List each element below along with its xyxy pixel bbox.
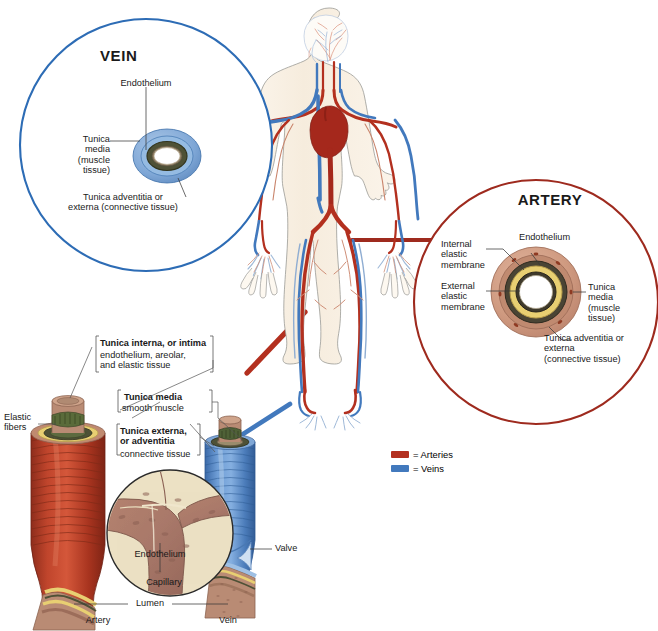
valve-label: Valve <box>275 543 315 553</box>
legend-swatch-veins <box>391 465 409 472</box>
figure-artwork <box>0 0 658 631</box>
capillary-endothelium-label: Endothelium <box>126 549 194 559</box>
capillary-label: Capillary <box>136 577 192 587</box>
tunica-externa-title: Tunica externa, or adventitia <box>120 426 202 447</box>
artery-tunica-adventitia-label: Tunica adventitia or externa (connective… <box>544 333 656 364</box>
elastic-fibers-label: Elastic fibers <box>4 412 44 433</box>
legend-label-veins: = Veins <box>413 463 444 474</box>
artery-tunica-media-label: Tunica media (muscle tissue) <box>588 282 648 323</box>
circulatory-system-figure: VEIN Endothelium Tunica media (muscle ti… <box>0 0 658 631</box>
legend-label-arteries: = Arteries <box>413 449 453 460</box>
human-body-figure <box>230 8 419 430</box>
artery-inset-title: ARTERY <box>494 192 606 209</box>
vein-inset-title: VEIN <box>100 48 192 65</box>
artery-cross-section <box>491 247 581 337</box>
tunica-interna-desc: endothelium, areolar, and elastic tissue <box>100 350 216 371</box>
artery-external-elastic-label: External elastic membrane <box>441 281 497 312</box>
artery-internal-elastic-label: Internal elastic membrane <box>441 239 497 270</box>
artery-endothelium-label: Endothelium <box>519 232 605 242</box>
tunica-interna-title: Tunica interna, or intima <box>100 338 216 348</box>
legend-item-arteries: = Arteries <box>391 449 453 460</box>
vein-endothelium-label: Endothelium <box>98 78 194 88</box>
vein-label: Vein <box>206 615 250 625</box>
lumen-label: Lumen <box>131 598 169 608</box>
tunica-media-desc: smooth muscle <box>122 403 214 413</box>
vein-tunica-adventitia-label: Tunica adventitia or externa (connective… <box>48 192 198 213</box>
legend-item-veins: = Veins <box>391 463 444 474</box>
artery-label: Artery <box>74 615 122 625</box>
legend-swatch-arteries <box>391 451 409 458</box>
vein-cross-section <box>133 129 201 183</box>
tunica-externa-desc: connective tissue <box>120 449 204 459</box>
vein-tunica-media-label: Tunica media (muscle tissue) <box>52 134 110 175</box>
tunica-media-title: Tunica media <box>124 392 214 402</box>
